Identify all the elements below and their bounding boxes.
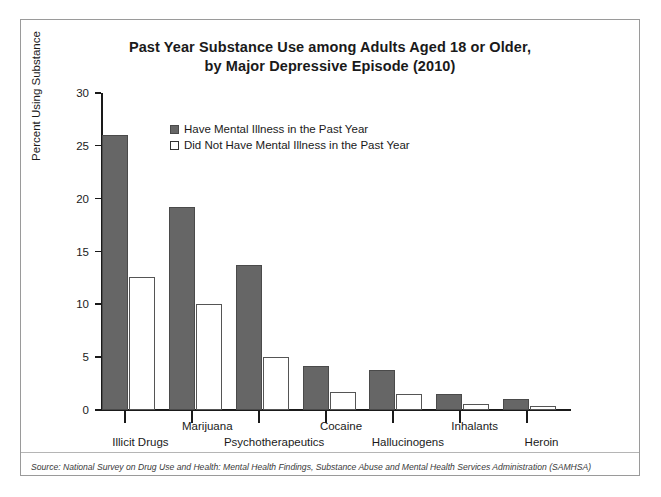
- chart-title: Past Year Substance Use among Adults Age…: [21, 38, 639, 76]
- bar-no-mental-illness: [263, 357, 289, 410]
- bar-mental-illness: [503, 399, 529, 410]
- source-note: Source: National Survey on Drug Use and …: [31, 462, 637, 472]
- legend-item-has-mental-illness: Have Mental Illness in the Past Year: [170, 121, 410, 137]
- chart-title-line1: Past Year Substance Use among Adults Age…: [129, 39, 531, 55]
- y-axis-tick-label: 25: [0, 140, 89, 152]
- bar-mental-illness: [303, 366, 329, 410]
- x-axis-tick: [526, 411, 528, 423]
- x-axis-label: Hallucinogens: [372, 436, 444, 448]
- bar-no-mental-illness: [463, 404, 489, 410]
- y-axis-tick-label: 15: [0, 246, 89, 258]
- chart-title-line2: by Major Depressive Episode (2010): [21, 57, 639, 76]
- bar-no-mental-illness: [396, 394, 422, 410]
- x-axis-label: Psychotherapeutics: [224, 436, 324, 448]
- bar-mental-illness: [236, 265, 262, 410]
- x-axis-tick: [392, 411, 394, 423]
- x-axis-tick: [258, 411, 260, 423]
- bar-no-mental-illness: [530, 406, 556, 410]
- bar-mental-illness: [436, 394, 462, 410]
- bar-mental-illness: [369, 370, 395, 410]
- x-axis-tick: [124, 411, 126, 423]
- bar-mental-illness: [169, 207, 195, 410]
- legend-label-no-mental-illness: Did Not Have Mental Illness in the Past …: [184, 139, 410, 151]
- y-axis-tick-label: 10: [0, 298, 89, 310]
- x-axis-label: Cocaine: [320, 420, 362, 432]
- source-divider: [21, 452, 639, 453]
- x-axis-label: Illicit Drugs: [112, 436, 168, 448]
- chart-legend: Have Mental Illness in the Past Year Did…: [170, 121, 410, 153]
- bar-no-mental-illness: [330, 392, 356, 410]
- legend-swatch-hollow-icon: [170, 141, 179, 150]
- bar-no-mental-illness: [129, 277, 155, 410]
- legend-item-no-mental-illness: Did Not Have Mental Illness in the Past …: [170, 137, 410, 153]
- legend-label-has-mental-illness: Have Mental Illness in the Past Year: [184, 123, 368, 135]
- y-axis-tick-label: 0: [0, 404, 89, 416]
- x-axis-label: Heroin: [525, 436, 559, 448]
- legend-swatch-filled-icon: [170, 125, 179, 134]
- x-axis-label: Inhalants: [451, 420, 498, 432]
- y-axis-tick-label: 20: [0, 193, 89, 205]
- x-axis-label: Marijuana: [182, 420, 233, 432]
- bar-mental-illness: [102, 135, 128, 410]
- y-axis-tick-label: 5: [0, 351, 89, 363]
- bar-no-mental-illness: [196, 304, 222, 410]
- y-axis-tick-label: 30: [0, 87, 89, 99]
